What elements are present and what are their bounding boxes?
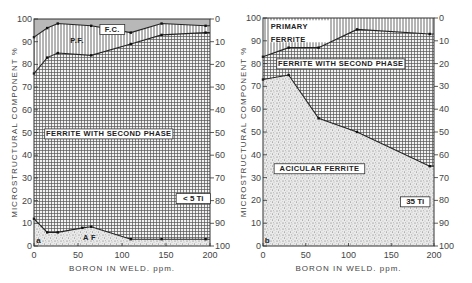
y-tick-label-left: 50 <box>22 128 32 138</box>
y-tick-label-left: 60 <box>22 105 32 115</box>
y-tick-label-right: 30 <box>215 82 225 92</box>
y-tick-label-left: 70 <box>251 81 261 91</box>
y-tick-label-left: 90 <box>251 36 261 46</box>
y-tick-label-right: 60 <box>215 150 225 160</box>
data-point-marker <box>130 238 132 240</box>
data-point-marker <box>204 25 206 27</box>
y-tick-label-left: 20 <box>251 195 261 205</box>
y-tick-label-left: 10 <box>22 218 32 228</box>
data-point-marker <box>317 117 319 119</box>
data-point-marker <box>356 131 358 133</box>
panel-b-chart: 0102030405060708090100100908070605040302… <box>239 13 454 273</box>
y-tick-label-right: 80 <box>215 196 225 206</box>
y-tick-label-right: 0 <box>439 13 444 23</box>
y-tick-label-right: 10 <box>439 36 449 46</box>
x-tick-label: 100 <box>341 250 356 260</box>
y-tick-label-right: 50 <box>439 127 449 137</box>
y-tick-label-right: 70 <box>215 173 225 183</box>
y-tick-label-left: 30 <box>251 173 261 183</box>
label-primary-ferrite: P.F. <box>70 36 84 45</box>
data-point-marker <box>46 231 48 233</box>
y-tick-label-right: 60 <box>439 150 449 160</box>
x-tick-label: 200 <box>202 250 217 260</box>
data-point-marker <box>160 22 162 24</box>
y-tick-label-right: 50 <box>215 128 225 138</box>
y-tick-label-left: 20 <box>22 196 32 206</box>
label-acicular-ferrite: ACICULAR FERRITE <box>280 164 360 173</box>
y-tick-label-left: 80 <box>251 59 261 69</box>
y-tick-label-right: 20 <box>439 59 449 69</box>
data-point-marker <box>356 28 358 30</box>
x-tick-label: 150 <box>158 250 173 260</box>
label-primary-ferrite-line2: FERRITE <box>271 35 306 44</box>
x-axis-title: BORON IN WELD. ppm. <box>69 264 175 273</box>
y-tick-label-right: 90 <box>439 218 449 228</box>
y-tick-label-left: 40 <box>251 150 261 160</box>
data-point-marker <box>317 46 319 48</box>
y-axis-title: MICROSTRUCTURAL COMPONENT % <box>10 47 19 218</box>
data-point-marker <box>90 54 92 56</box>
data-point-marker <box>160 34 162 36</box>
figure-canvas: 0102030405060708090100100908070605040302… <box>0 0 472 283</box>
data-point-marker <box>57 52 59 54</box>
data-point-marker <box>130 31 132 33</box>
y-tick-label-right: 70 <box>439 173 449 183</box>
y-tick-label-left: 90 <box>22 37 32 47</box>
x-tick-label: 150 <box>384 250 399 260</box>
x-tick-label: 200 <box>426 250 441 260</box>
panel-letter: b <box>265 236 270 245</box>
y-tick-label-right: 30 <box>439 81 449 91</box>
y-tick-label-left: 40 <box>22 150 32 160</box>
x-tick-label: 0 <box>31 250 36 260</box>
data-point-marker <box>57 231 59 233</box>
label-ferrite-carbide: F.C. <box>105 25 120 34</box>
y-tick-label-right: 40 <box>439 104 449 114</box>
y-tick-label-left: 10 <box>251 218 261 228</box>
y-tick-label-left: 50 <box>251 127 261 137</box>
y-tick-label-left: 60 <box>251 104 261 114</box>
x-tick-label: 50 <box>73 250 83 260</box>
data-point-marker <box>46 27 48 29</box>
label-primary-ferrite-line1: PRIMARY <box>271 22 308 31</box>
label-titanium-condition: < 5 Ti <box>183 194 204 203</box>
y-axis-title: MICROSTRUCTURAL COMPONENT % <box>239 47 248 218</box>
y-tick-label-right: 40 <box>215 105 225 115</box>
y-tick-label-right: 90 <box>215 218 225 228</box>
data-point-marker <box>287 74 289 76</box>
data-point-marker <box>57 22 59 24</box>
y-tick-label-left: 100 <box>246 13 261 23</box>
y-tick-label-left: 30 <box>22 173 32 183</box>
y-tick-label-left: 70 <box>22 82 32 92</box>
y-tick-label-right: 10 <box>215 37 225 47</box>
data-point-marker <box>46 56 48 58</box>
x-tick-label: 0 <box>260 250 265 260</box>
label-ferrite-second-phase: FERRITE WITH SECOND PHASE <box>278 59 403 68</box>
x-axis-title: BORON IN WELD. ppm. <box>295 264 401 273</box>
data-point-marker <box>81 227 83 229</box>
x-tick-label: 50 <box>301 250 311 260</box>
data-point-marker <box>287 46 289 48</box>
panel-letter: a <box>36 236 41 245</box>
label-titanium-condition: 35 Ti <box>406 197 424 206</box>
y-tick-label-right: 20 <box>215 59 225 69</box>
data-point-marker <box>429 165 431 167</box>
data-point-marker <box>130 43 132 45</box>
data-point-marker <box>204 31 206 33</box>
y-tick-label-right: 80 <box>439 195 449 205</box>
data-point-marker <box>160 238 162 240</box>
label-acicular-ferrite: A F <box>83 233 96 242</box>
y-tick-label-left: 80 <box>22 59 32 69</box>
panel-a-chart: 0102030405060708090100100908070605040302… <box>10 14 230 273</box>
y-tick-label-left: 100 <box>17 14 32 24</box>
label-ferrite-second-phase: FERRITE WITH SECOND PHASE <box>46 129 171 138</box>
data-point-marker <box>429 33 431 35</box>
data-point-marker <box>90 25 92 27</box>
x-tick-label: 100 <box>114 250 129 260</box>
data-point-marker <box>204 238 206 240</box>
data-point-marker <box>90 226 92 228</box>
y-tick-label-right: 0 <box>215 14 220 24</box>
